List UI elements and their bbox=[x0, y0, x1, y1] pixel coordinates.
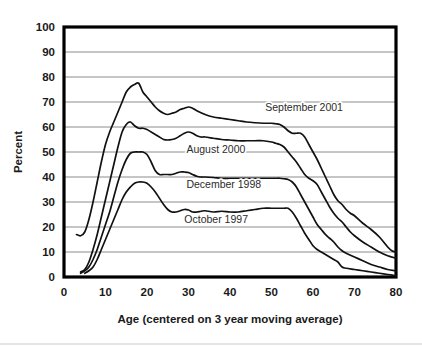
x-tick-label: 70 bbox=[348, 286, 361, 298]
y-tick-label: 70 bbox=[42, 96, 55, 108]
y-tick-label: 80 bbox=[42, 71, 55, 83]
y-tick-label: 10 bbox=[42, 246, 55, 258]
series-label: September 2001 bbox=[265, 101, 343, 113]
y-tick-label: 0 bbox=[49, 271, 55, 283]
y-axis-title: Percent bbox=[12, 131, 24, 173]
y-tick-label: 90 bbox=[42, 46, 55, 58]
x-tick-label: 20 bbox=[141, 286, 154, 298]
series-label: October 1997 bbox=[184, 213, 248, 225]
x-tick-label: 0 bbox=[61, 286, 67, 298]
x-tick-label: 30 bbox=[182, 286, 195, 298]
x-tick-label: 80 bbox=[390, 286, 403, 298]
series-label: December 1998 bbox=[186, 178, 261, 190]
x-axis-title: Age (centered on 3 year moving average) bbox=[118, 313, 343, 325]
y-tick-label: 30 bbox=[42, 196, 55, 208]
x-tick-label: 60 bbox=[307, 286, 320, 298]
y-tick-label: 20 bbox=[42, 221, 55, 233]
y-tick-label: 40 bbox=[42, 171, 55, 183]
y-tick-label: 50 bbox=[42, 146, 55, 158]
series-label: August 2000 bbox=[186, 143, 245, 155]
x-tick-label: 10 bbox=[99, 286, 112, 298]
x-tick-label: 50 bbox=[265, 286, 278, 298]
y-tick-label: 60 bbox=[42, 121, 55, 133]
x-tick-label: 40 bbox=[224, 286, 237, 298]
chart-figure: September 2001September 2001August 2000A… bbox=[0, 0, 422, 347]
chart-canvas: September 2001September 2001August 2000A… bbox=[0, 0, 422, 347]
y-tick-label: 100 bbox=[36, 21, 55, 33]
